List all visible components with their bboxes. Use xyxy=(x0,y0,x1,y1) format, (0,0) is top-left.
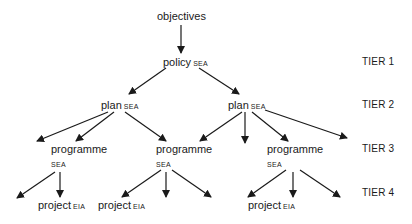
edge-plan-left-out xyxy=(37,112,108,141)
node-label: programme xyxy=(267,143,323,155)
node-objectives: objectives xyxy=(157,10,206,22)
node-tag: EIA xyxy=(283,203,295,210)
tier-label-2: TIER 2 xyxy=(362,99,394,111)
edge-policy-plan-left xyxy=(129,68,166,94)
node-tag: SEA xyxy=(251,103,266,110)
node-label: programme xyxy=(156,143,212,155)
node-tag: EIA xyxy=(73,203,85,210)
tier-label-1: TIER 1 xyxy=(362,56,394,68)
edges-layer xyxy=(0,0,412,224)
edge-programme-mid-project-mid xyxy=(122,170,161,197)
edge-programme-right-out-right xyxy=(300,170,340,197)
node-tag: EIA xyxy=(133,203,145,210)
edge-programme-mid-out-right xyxy=(172,170,211,197)
node-label: project xyxy=(98,199,131,211)
node-label: policy xyxy=(163,56,191,68)
node-tag-programme-left: SEA xyxy=(51,161,66,169)
node-tag-programme-right: SEA xyxy=(267,161,282,169)
node-project-right: projectEIA xyxy=(248,199,295,213)
node-programme-right: programme xyxy=(267,143,323,155)
node-project-mid: projectEIA xyxy=(98,199,145,213)
tier-label-4: TIER 4 xyxy=(362,187,394,199)
node-plan-right: planSEA xyxy=(228,99,266,113)
edge-policy-plan-right xyxy=(199,68,239,94)
edge-plan-left-programme-left xyxy=(76,112,114,141)
node-programme-left: programme xyxy=(51,143,107,155)
node-policy: policySEA xyxy=(163,56,208,70)
tier-label-3: TIER 3 xyxy=(362,143,394,155)
node-label: project xyxy=(38,199,71,211)
edge-programme-left-out xyxy=(17,172,55,198)
edge-plan-right-programme-mid xyxy=(200,112,242,141)
node-label: objectives xyxy=(157,10,206,22)
node-tag: SEA xyxy=(124,103,139,110)
node-label: plan xyxy=(101,99,122,111)
node-label: plan xyxy=(228,99,249,111)
node-tag: SEA xyxy=(193,60,208,67)
node-label: programme xyxy=(51,143,107,155)
node-plan-left: planSEA xyxy=(101,99,139,113)
node-tag-programme-mid: SEA xyxy=(156,161,171,169)
edge-programme-right-project-right xyxy=(248,170,286,197)
edge-plan-left-programme-mid xyxy=(125,112,166,141)
node-programme-mid: programme xyxy=(156,143,212,155)
node-label: project xyxy=(248,199,281,211)
node-project-left: projectEIA xyxy=(38,199,85,213)
edge-plan-right-out-far xyxy=(265,110,347,138)
